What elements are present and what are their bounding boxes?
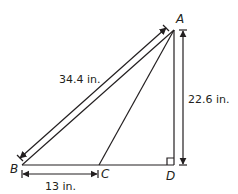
right-angle-marker [167,158,174,165]
point-label-a: A [175,12,184,26]
dimension-label-bc: 13 in. [45,180,76,193]
dimension-label-ab: 34.4 in. [59,73,101,86]
dimension-ad [179,30,187,165]
segment-ab [22,30,174,165]
point-label-d: D [166,169,175,183]
dimension-bc [22,170,98,178]
dimension-label-ad: 22.6 in. [188,93,230,106]
point-label-c: C [101,167,110,181]
segment-ac [99,30,174,165]
triangle-diagram: A B C D 34.4 in. 22.6 in. 13 in. [0,0,238,194]
dimension-ab [17,25,169,161]
point-label-b: B [10,162,18,176]
